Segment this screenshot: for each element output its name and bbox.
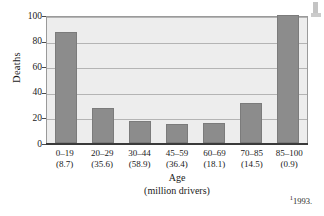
footnote-text: 1993. — [293, 196, 312, 206]
x-axis-tick-sublabel: (0.9) — [271, 159, 308, 170]
x-axis-tick-sublabel: (36.4) — [158, 159, 195, 170]
bar-slot — [270, 17, 307, 143]
x-axis-tick-sublabel: (14.5) — [233, 159, 270, 170]
x-axis-tick-category: 30–44 — [128, 148, 151, 158]
x-axis-tick-category: 70–85 — [241, 148, 264, 158]
plot-area — [46, 16, 308, 144]
y-axis-tick-mark — [42, 67, 46, 68]
x-axis-tick-label: 20–29(35.6) — [83, 148, 120, 170]
bar — [277, 15, 299, 143]
bar-slot — [47, 17, 84, 143]
x-axis-tick-sublabel: (18.1) — [196, 159, 233, 170]
x-axis-tick-label: 85–100(0.9) — [271, 148, 308, 170]
bar-slot — [158, 17, 195, 143]
x-axis-tick-category: 20–29 — [91, 148, 114, 158]
bar — [240, 103, 262, 143]
bar-slot — [196, 17, 233, 143]
y-axis-tick-mark — [42, 118, 46, 119]
x-axis-title-unit: (million drivers) — [46, 185, 308, 198]
y-axis-tick-label: 40 — [14, 88, 42, 98]
y-axis-tick-label: 0 — [14, 140, 42, 150]
y-axis-tick-mark — [42, 144, 46, 145]
scan-artifact-mark-lower — [311, 13, 321, 17]
x-axis-tick-label: 45–59(36.4) — [158, 148, 195, 170]
bar — [203, 123, 225, 143]
footnote: 11993. — [290, 194, 312, 206]
bar-slot — [121, 17, 158, 143]
y-axis-tick-label: 20 — [14, 114, 42, 124]
x-axis-tick-sublabel: (8.7) — [46, 159, 83, 170]
bar-chart-figure: Deaths 100806040200 0–19(8.7)20–29(35.6)… — [0, 0, 324, 216]
x-axis-line — [46, 143, 308, 145]
y-axis-tick-label: 60 — [14, 63, 42, 73]
x-axis-tick-category: 45–59 — [166, 148, 189, 158]
x-axis-title-main: Age — [169, 172, 186, 183]
x-axis-tick-label: 0–19(8.7) — [46, 148, 83, 170]
x-axis-tick-category: 0–19 — [56, 148, 74, 158]
bar-slot — [233, 17, 270, 143]
bar-series — [47, 17, 307, 143]
bar — [92, 108, 114, 143]
y-axis-tick-mark — [42, 93, 46, 94]
x-axis-title: Age (million drivers) — [46, 172, 308, 197]
bar — [166, 124, 188, 143]
y-axis-tick-mark — [42, 42, 46, 43]
x-axis-tick-label: 60–69(18.1) — [196, 148, 233, 170]
y-axis-tick-label: 100 — [14, 12, 42, 22]
x-axis-tick-sublabel: (35.6) — [83, 159, 120, 170]
y-axis-tick-labels: 100806040200 — [14, 16, 42, 144]
x-axis-tick-label: 30–44(58.9) — [121, 148, 158, 170]
bar-slot — [84, 17, 121, 143]
y-axis-tick-label: 80 — [14, 37, 42, 47]
x-axis-tick-labels: 0–19(8.7)20–29(35.6)30–44(58.9)45–59(36.… — [46, 148, 308, 170]
x-axis-tick-category: 85–100 — [276, 148, 303, 158]
bar — [55, 32, 77, 143]
scan-artifact — [311, 2, 322, 18]
x-axis-tick-category: 60–69 — [203, 148, 226, 158]
y-axis-tick-mark — [42, 16, 46, 17]
x-axis-tick-label: 70–85(14.5) — [233, 148, 270, 170]
x-axis-tick-sublabel: (58.9) — [121, 159, 158, 170]
bar — [129, 121, 151, 143]
scan-artifact-mark-upper — [313, 2, 318, 13]
